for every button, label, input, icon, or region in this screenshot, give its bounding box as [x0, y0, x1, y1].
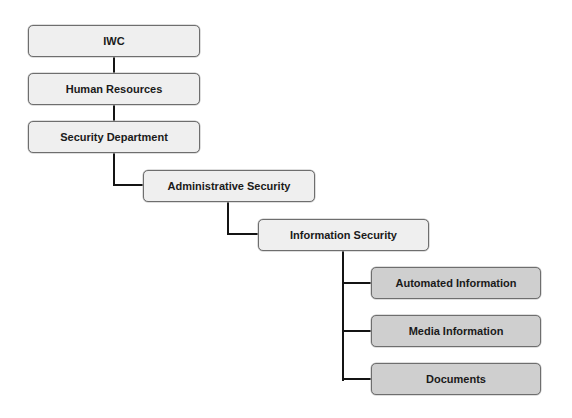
node-administrative-security: Administrative Security — [143, 170, 315, 202]
node-documents: Documents — [371, 363, 541, 395]
node-label: Media Information — [409, 325, 504, 337]
node-label: Automated Information — [396, 277, 517, 289]
connector-security-department-admin-vertical — [113, 153, 115, 186]
connector-admin-infosec-vertical — [227, 202, 229, 235]
node-iwc: IWC — [28, 25, 200, 57]
node-security-department: Security Department — [28, 121, 200, 153]
node-information-security: Information Security — [258, 219, 429, 251]
connector-security-department-admin-horizontal — [113, 184, 143, 186]
node-label: Administrative Security — [168, 180, 291, 192]
connector-admin-infosec-horizontal — [227, 233, 258, 235]
connector-iwc-hr — [113, 57, 115, 73]
connector-infosec-media — [342, 330, 371, 332]
node-label: Documents — [426, 373, 486, 385]
connector-hr-security-department — [113, 105, 115, 121]
connector-infosec-children-trunk — [342, 251, 344, 381]
node-label: Security Department — [60, 131, 168, 143]
node-label: Information Security — [290, 229, 397, 241]
node-automated-information: Automated Information — [371, 267, 541, 299]
node-label: Human Resources — [66, 83, 163, 95]
connector-infosec-documents — [342, 378, 371, 380]
node-human-resources: Human Resources — [28, 73, 200, 105]
connector-infosec-automated — [342, 282, 371, 284]
node-label: IWC — [103, 35, 124, 47]
node-media-information: Media Information — [371, 315, 541, 347]
